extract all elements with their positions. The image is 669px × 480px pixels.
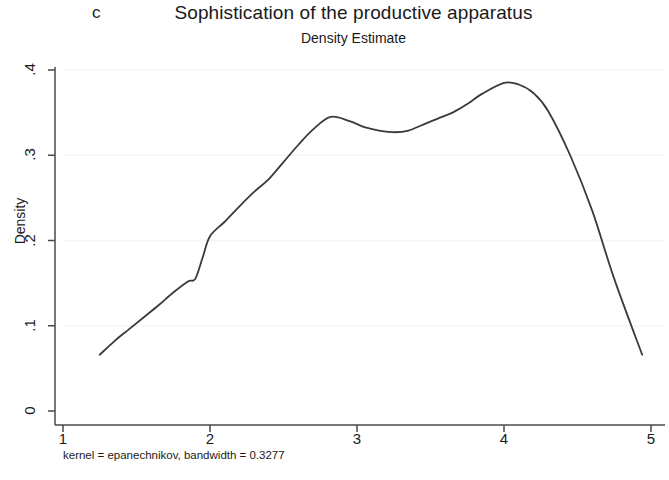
y-tick-label-2: .2 [21, 223, 38, 257]
y-tick-label-1: .1 [21, 308, 38, 342]
density-curve [100, 82, 642, 355]
density-plot-figure: c Sophistication of the productive appar… [0, 0, 669, 480]
y-tick-label-4: .4 [21, 53, 38, 87]
kernel-footnote: kernel = epanechnikov, bandwidth = 0.327… [63, 449, 285, 461]
x-tick-label-2: 3 [342, 430, 372, 447]
x-tick-label-1: 2 [195, 430, 225, 447]
x-tick-label-3: 4 [489, 430, 519, 447]
plot-area [0, 0, 669, 480]
x-tick-label-4: 5 [636, 430, 666, 447]
x-tick-label-0: 1 [48, 430, 78, 447]
y-tick-label-3: .3 [21, 138, 38, 172]
y-tick-label-0: 0 [21, 394, 38, 428]
